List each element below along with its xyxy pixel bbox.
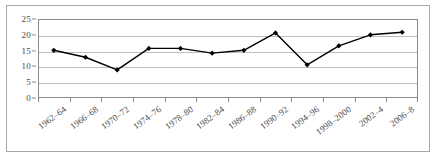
- chart-figure: 0510152025 1962–641966–681970–721974–761…: [0, 0, 438, 160]
- x-tick-label: 2006–8: [388, 104, 416, 129]
- y-tick-label: 15: [22, 46, 31, 55]
- x-tick-label: 1970–72: [99, 104, 131, 131]
- x-tick-label: 1990–92: [258, 104, 290, 131]
- y-tick-mark: [32, 34, 36, 35]
- data-point: [210, 51, 215, 56]
- y-tick-mark: [32, 19, 36, 20]
- y-tick-mark: [32, 98, 36, 99]
- x-tick-label: 1966–68: [68, 104, 100, 131]
- y-tick-label: 10: [22, 62, 31, 71]
- x-axis-labels: 1962–641966–681970–721974–761978–801982–…: [38, 100, 418, 156]
- data-point: [178, 46, 183, 51]
- data-point: [400, 30, 405, 35]
- data-point: [51, 48, 56, 53]
- y-tick-mark: [32, 66, 36, 67]
- x-tick-label: 1982–84: [194, 104, 226, 131]
- x-tick-label: 1962–64: [36, 104, 68, 131]
- data-series: [38, 19, 418, 98]
- data-point: [83, 55, 88, 60]
- data-point: [241, 48, 246, 53]
- y-tick-label: 25: [22, 15, 31, 24]
- y-tick-mark: [32, 50, 36, 51]
- x-tick-label: 1978–80: [163, 104, 195, 131]
- x-tick-label: 1998–2000: [314, 104, 353, 137]
- x-tick-label: 2002–4: [356, 104, 384, 129]
- x-tick-label: 1986–88: [226, 104, 258, 131]
- x-tick-label: 1974–76: [131, 104, 163, 131]
- data-point: [368, 32, 373, 37]
- y-tick-label: 0: [26, 94, 31, 103]
- y-tick-label: 5: [26, 78, 31, 87]
- series-line: [54, 32, 402, 70]
- y-tick-mark: [32, 82, 36, 83]
- y-tick-label: 20: [22, 30, 31, 39]
- y-axis: 0510152025: [0, 19, 36, 98]
